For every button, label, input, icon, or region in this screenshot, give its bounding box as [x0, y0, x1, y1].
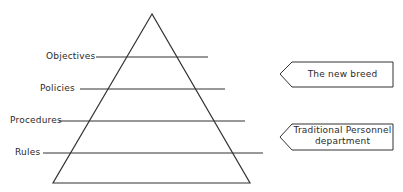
pyramid-triangle: [53, 14, 250, 183]
callout-traditional-line1: Traditional Personnel: [292, 125, 393, 136]
level-label-procedures: Procedures: [10, 115, 62, 125]
callout-traditional-label: Traditional Personnel department: [292, 125, 393, 147]
level-label-objectives: Objectives: [46, 51, 95, 61]
pyramid-diagram: [0, 0, 403, 192]
level-label-rules: Rules: [15, 147, 40, 157]
callout-traditional-line2: department: [292, 136, 393, 147]
level-label-policies: Policies: [40, 83, 75, 93]
callout-new-breed-label: The new breed: [292, 69, 393, 80]
